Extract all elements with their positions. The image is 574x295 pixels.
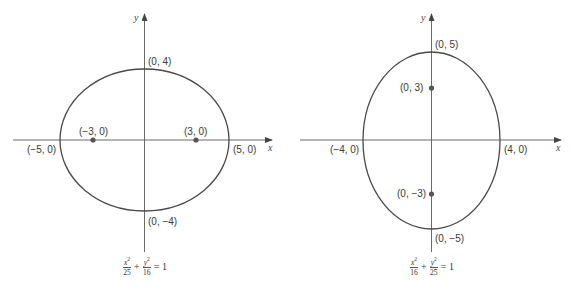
left-eq-plus: + <box>134 261 140 272</box>
right-eq-term2: y2 25 <box>430 257 438 277</box>
right-eq-term2-exp: 2 <box>434 256 437 262</box>
right-eq-term1-exp: 2 <box>414 256 417 262</box>
left-eq-term1-exp: 2 <box>127 256 130 262</box>
left-ellipse-diagram: y x (0, 4) (0, −4) (−5, 0) (5, 0) (−3, 0… <box>13 12 273 252</box>
left-focus-point-2 <box>193 137 198 142</box>
left-focus-point-1 <box>90 137 95 142</box>
right-label-bottom: (0, −5) <box>435 233 464 244</box>
right-x-axis-label: x <box>555 142 561 153</box>
left-label-left: (−5, 0) <box>27 144 56 155</box>
ellipse-figures: y x (0, 4) (0, −4) (−5, 0) (5, 0) (−3, 0… <box>0 0 574 295</box>
right-ellipse-diagram: y x (0, 5) (0, −5) (−4, 0) (4, 0) (0, 3)… <box>300 12 561 252</box>
right-eq-equals: = 1 <box>441 261 454 272</box>
left-eq-term1-den: 25 <box>123 268 131 277</box>
right-equation: x2 16 + y2 25 = 1 <box>409 257 456 277</box>
right-eq-term1-den: 16 <box>410 268 418 277</box>
right-label-top: (0, 5) <box>435 39 458 50</box>
right-eq-plus: + <box>421 261 427 272</box>
left-eq-term2-den: 16 <box>143 268 151 277</box>
right-eq-term1: x2 16 <box>410 257 418 277</box>
left-label-focus1: (−3, 0) <box>79 126 108 137</box>
left-eq-equals: = 1 <box>154 261 167 272</box>
left-label-focus2: (3, 0) <box>184 126 207 137</box>
left-label-right: (5, 0) <box>233 144 256 155</box>
left-label-bottom: (0, −4) <box>148 216 177 227</box>
right-eq-term2-den: 25 <box>430 268 438 277</box>
left-y-axis-label: y <box>133 12 139 23</box>
left-x-axis-label: x <box>267 142 273 153</box>
right-focus-point-2 <box>429 191 434 196</box>
left-eq-term1: x2 25 <box>123 257 131 277</box>
right-label-right: (4, 0) <box>504 144 527 155</box>
right-label-left: (−4, 0) <box>330 144 359 155</box>
right-label-focus1: (0, 3) <box>400 82 423 93</box>
right-label-focus2: (0, −3) <box>397 188 426 199</box>
left-equation: x2 25 + y2 16 = 1 <box>122 257 169 277</box>
left-eq-term2-exp: 2 <box>147 256 150 262</box>
left-label-top: (0, 4) <box>148 56 171 67</box>
left-eq-term2: y2 16 <box>143 257 151 277</box>
right-y-axis-label: y <box>420 12 426 23</box>
right-focus-point-1 <box>429 85 434 90</box>
